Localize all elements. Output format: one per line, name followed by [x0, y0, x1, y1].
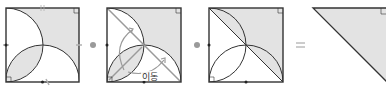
panel-step-3 [172, 8, 283, 86]
area-transformation-diagram: 이동 [0, 0, 386, 86]
arrow-operator-icon [90, 42, 96, 48]
panel-result [313, 8, 386, 82]
move-label: 이동 [142, 72, 158, 82]
midpoint-dot [245, 81, 248, 84]
result-triangle [313, 8, 386, 82]
arrow-operator-icon [194, 42, 200, 48]
panel-step-1 [0, 5, 82, 86]
midpoint-dot [106, 44, 109, 47]
equals-operator-icon [296, 43, 305, 47]
panel-step-2: 이동 [70, 8, 181, 86]
midpoint-dot [41, 81, 44, 84]
midpoint-dot [5, 44, 8, 47]
midpoint-dot [208, 44, 211, 47]
right-angle-mark [209, 77, 214, 82]
shaded-lens [6, 45, 43, 82]
